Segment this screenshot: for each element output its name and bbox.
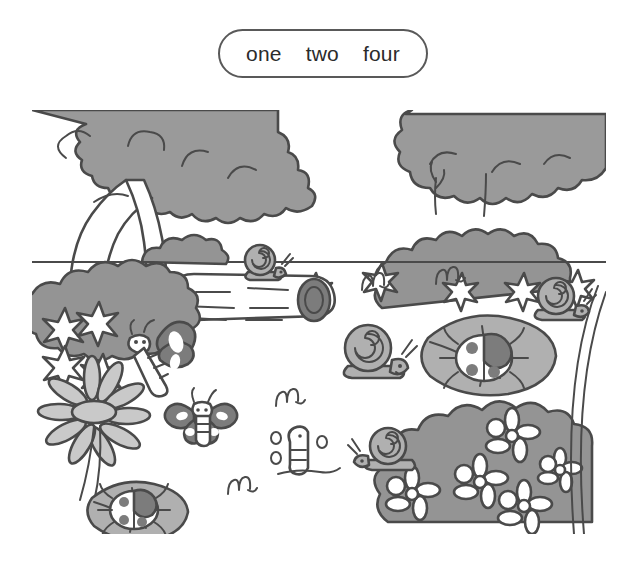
garden-scene-svg: .ol { stroke:#4a4a4a; stroke-width:2.6; …: [32, 110, 606, 534]
answer-word-four[interactable]: four: [363, 43, 400, 64]
ladybug-leaf-right: [421, 316, 556, 396]
answer-word-box[interactable]: one two four: [218, 29, 428, 78]
log-end-cap: [298, 279, 330, 321]
daisy-center: [72, 401, 116, 423]
answer-word-two[interactable]: two: [306, 43, 339, 64]
page-root: one two four .ol { stroke:#4a4a4a; strok…: [0, 0, 637, 584]
answer-word-one[interactable]: one: [246, 43, 282, 64]
garden-scene-illustration: .ol { stroke:#4a4a4a; stroke-width:2.6; …: [32, 110, 606, 534]
